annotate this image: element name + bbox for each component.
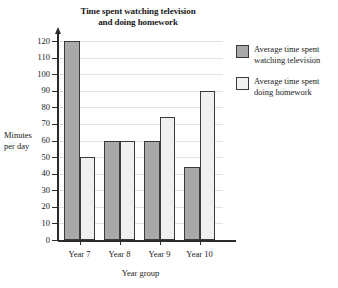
x-axis-line — [58, 240, 236, 242]
x-axis-tick — [80, 241, 81, 245]
y-axis-tick-label: 120 — [10, 37, 50, 46]
y-axis-tick-label-wrap: 30 — [8, 186, 50, 195]
legend-item-television: Average time spent watching television — [236, 44, 336, 72]
legend-label-homework-line-2: doing homework — [254, 87, 338, 98]
x-axis-title: Year group — [58, 268, 223, 278]
legend-swatch-television-icon — [236, 45, 249, 58]
legend-label-television-line-2: watching television — [254, 55, 338, 66]
y-axis-tick-label-wrap: 100 — [8, 70, 50, 79]
bar-chart: Time spent watching television and doing… — [0, 0, 338, 288]
y-axis-tick-label: 50 — [10, 153, 50, 162]
legend-label-television-line-1: Average time spent — [254, 44, 338, 55]
y-axis-tick-label-wrap: 60 — [8, 136, 50, 145]
y-axis-tick-label: 110 — [10, 53, 50, 62]
y-axis-tick-label-wrap: 70 — [8, 119, 50, 128]
chart-title: Time spent watching television and doing… — [48, 6, 228, 28]
y-axis-tick-label: 80 — [10, 103, 50, 112]
y-axis-tick-label-wrap: 120 — [8, 37, 50, 46]
bar-year-9-television — [144, 141, 160, 241]
y-axis-tick-label: 100 — [10, 70, 50, 79]
y-axis-tick-label: 0 — [10, 236, 50, 245]
bar-year-8-television — [104, 141, 120, 241]
x-axis-label-year-10: Year 10 — [176, 250, 224, 259]
y-axis-tick-label-wrap: 110 — [8, 53, 50, 62]
chart-title-line-1: Time spent watching television — [48, 6, 228, 17]
bar-year-10-television — [184, 167, 200, 240]
bar-year-7-television — [64, 41, 80, 240]
legend-label-homework-line-1: Average time spent — [254, 76, 338, 87]
y-axis-arrow-icon — [55, 27, 61, 34]
legend-swatch-homework-icon — [236, 77, 249, 90]
bar-year-9-homework — [160, 117, 176, 240]
y-axis-tick-label: 30 — [10, 186, 50, 195]
y-axis-tick-label: 70 — [10, 119, 50, 128]
x-axis-tick — [160, 241, 161, 245]
y-axis-tick-label-wrap: 10 — [8, 219, 50, 228]
y-axis-tick-label-wrap: 0 — [8, 236, 50, 245]
y-axis-tick-label: 40 — [10, 169, 50, 178]
bar-year-7-homework — [80, 157, 96, 240]
chart-title-line-2: and doing homework — [48, 17, 228, 28]
bar-year-8-homework — [120, 141, 136, 241]
y-axis-tick-label: 10 — [10, 219, 50, 228]
x-axis-tick — [200, 241, 201, 245]
y-axis-tick-label: 20 — [10, 202, 50, 211]
legend-label-television: Average time spent watching television — [254, 44, 338, 66]
y-axis-tick-label: 60 — [10, 136, 50, 145]
y-axis-tick-label-wrap: 90 — [8, 86, 50, 95]
y-axis-tick-label-wrap: 80 — [8, 103, 50, 112]
y-axis-tick-label-wrap: 20 — [8, 202, 50, 211]
chart-legend: Average time spent watching television A… — [236, 44, 336, 108]
y-axis-tick-label-wrap: 40 — [8, 169, 50, 178]
bar-year-10-homework — [200, 91, 216, 240]
x-axis-tick — [120, 241, 121, 245]
legend-item-homework: Average time spent doing homework — [236, 76, 336, 104]
plot-area — [58, 41, 223, 240]
y-axis-tick-label-wrap: 50 — [8, 153, 50, 162]
y-axis-tick-label: 90 — [10, 86, 50, 95]
legend-label-homework: Average time spent doing homework — [254, 76, 338, 98]
